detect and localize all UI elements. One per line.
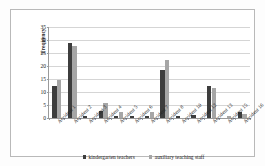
bar [130, 116, 134, 118]
y-tick-label: 5 [43, 102, 46, 108]
bar [57, 80, 61, 118]
bar [114, 116, 118, 118]
chart-legend: kindergarten teachersauxiliary teaching … [21, 154, 265, 160]
legend-swatch-icon [149, 155, 153, 159]
legend-item[interactable]: auxiliary teaching staff [149, 154, 205, 160]
y-tick-label: 20 [40, 63, 46, 69]
bar [145, 116, 149, 118]
legend-item[interactable]: kindergarten teachers [83, 154, 135, 160]
y-tick-label: 25 [40, 50, 46, 56]
y-tick-label: 30 [40, 37, 46, 43]
y-tick-label: 0 [43, 115, 46, 121]
legend-swatch-icon [83, 155, 87, 159]
bar [52, 86, 56, 119]
chart-figure: Frequency 05101520253035 Accident 1Accid… [0, 0, 265, 166]
bar-group [49, 27, 64, 118]
bar [176, 116, 180, 118]
y-tick-label: 10 [40, 89, 46, 95]
chart-frame: Frequency 05101520253035 Accident 1Accid… [10, 9, 255, 157]
y-tick-label: 15 [40, 76, 46, 82]
legend-label: auxiliary teaching staff [155, 154, 205, 160]
y-tick-label: 35 [40, 24, 46, 30]
legend-label: kindergarten teachers [89, 154, 135, 160]
x-axis-labels: Accident 1Accident 2Accident 3Accident 4… [48, 120, 258, 152]
